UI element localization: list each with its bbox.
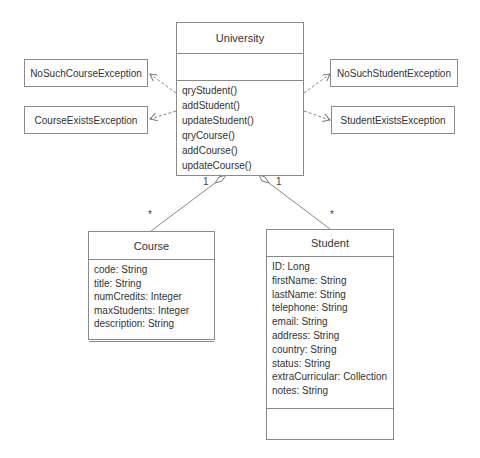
multiplicity-university-student-source: 1 [276,176,282,187]
operation: updateCourse() [182,158,298,173]
attribute: lastName: String [272,288,388,302]
class-student-exists-exception[interactable]: StudentExistsException [331,106,455,134]
class-name: University [216,32,264,44]
attributes-section: ID: Long firstName: String lastName: Str… [267,256,393,408]
attribute: status: String [272,357,388,371]
class-name-section: Student [267,230,393,256]
attribute: email: String [272,315,388,329]
operation: addCourse() [182,143,298,158]
class-name: StudentExistsException [340,115,445,126]
operation: qryCourse() [182,128,298,143]
dependency-student-exists [304,111,330,120]
attribute: maxStudents: Integer [94,304,209,318]
attribute: numCredits: Integer [94,290,209,304]
dependency-no-such-course [150,74,176,93]
class-name-section: Course [89,232,214,259]
aggregation-diamond-student [259,175,269,183]
class-name: NoSuchStudentException [337,68,451,79]
attribute: notes: String [272,384,388,398]
class-course-exists-exception[interactable]: CourseExistsException [24,106,148,134]
attribute: title: String [94,277,209,291]
attribute: extraCurricular: Collection [272,370,388,384]
dependency-course-exists [150,111,176,119]
operations-section [89,341,214,370]
attribute: address: String [272,329,388,343]
attribute: description: String [94,317,209,331]
operation: updateStudent() [182,113,298,128]
association-university-student [269,183,330,229]
attribute: ID: Long [272,260,388,274]
multiplicity-university-student-target: * [330,209,334,220]
attribute: firstName: String [272,274,388,288]
class-name: CourseExistsException [35,115,138,126]
aggregation-diamond-course [215,175,226,183]
multiplicity-university-course-source: 1 [203,176,209,187]
dependency-no-such-student [304,74,330,93]
class-course[interactable]: Course code: String title: String numCre… [88,231,215,340]
class-no-such-student-exception[interactable]: NoSuchStudentException [330,59,458,87]
class-name: Student [311,237,349,249]
attributes-section: code: String title: String numCredits: I… [89,259,214,341]
operation: addStudent() [182,98,298,113]
attribute: code: String [94,263,209,277]
operation: qryStudent() [182,83,298,98]
class-name: Course [134,240,169,252]
operations-section [267,408,393,439]
class-no-such-course-exception[interactable]: NoSuchCourseException [24,59,148,87]
attribute: telephone: String [272,301,388,315]
attribute: country: String [272,343,388,357]
class-student[interactable]: Student ID: Long firstName: String lastN… [266,229,394,440]
class-name-section: University [177,23,303,53]
attributes-section [177,53,303,80]
operations-section: qryStudent() addStudent() updateStudent(… [177,80,303,176]
class-university[interactable]: University qryStudent() addStudent() upd… [176,22,304,176]
association-university-course [151,183,215,231]
class-name: NoSuchCourseException [30,68,142,79]
multiplicity-university-course-target: * [148,209,152,220]
